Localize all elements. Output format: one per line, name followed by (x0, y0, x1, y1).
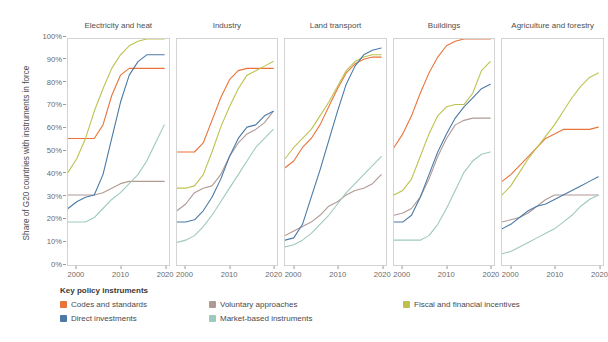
facet-panel-title: Land transport (284, 14, 387, 38)
series-line (502, 177, 598, 229)
legend-swatch (209, 301, 216, 308)
facet-plot-area (176, 38, 279, 266)
series-line (285, 157, 381, 247)
facet-plot-area (67, 38, 170, 266)
facet-plot-area (501, 38, 604, 266)
facet-panel-title: Buildings (393, 14, 496, 38)
series-line (177, 68, 273, 152)
legend-swatch (60, 315, 67, 322)
legend-item[interactable]: Direct investments (60, 312, 205, 324)
y-tick-label: 70% (47, 100, 62, 109)
facet-panel-title: Agriculture and forestry (501, 14, 604, 38)
facet-plot-area (284, 38, 387, 266)
series-line (177, 111, 273, 222)
x-tick-label: 2000 (67, 270, 84, 279)
y-axis-title: Share of G20 countries with instruments … (18, 36, 34, 270)
y-tick-label: 60% (47, 123, 62, 132)
series-line (68, 125, 164, 222)
legend-label: Fiscal and financial incentives (414, 300, 520, 309)
y-tick-label: 10% (47, 237, 62, 246)
x-tick-label: 2020 (265, 270, 282, 279)
facet-panel: Electricity and heat (67, 14, 170, 266)
facet-panel-title: Industry (176, 14, 279, 38)
x-tick-label: 2000 (393, 270, 410, 279)
y-tick-label: 0% (51, 260, 62, 269)
x-axis-panel: 200020102020 (176, 266, 279, 282)
series-line (285, 55, 381, 159)
y-tick-label: 100% (43, 32, 62, 41)
legend-label: Codes and standards (71, 300, 147, 309)
chart-root: Share of G20 countries with instruments … (0, 0, 608, 342)
x-tick-label: 2000 (502, 270, 519, 279)
series-line (285, 48, 381, 240)
y-tick-label: 90% (47, 54, 62, 63)
series-line (502, 127, 598, 181)
series-line (68, 181, 164, 195)
series-line (68, 68, 164, 138)
facet-panel: Agriculture and forestry (501, 14, 604, 266)
series-line (177, 129, 273, 242)
legend-swatch (60, 301, 67, 308)
panel-row: Electricity and heatIndustryLand transpo… (67, 14, 604, 266)
y-tick-label: 40% (47, 168, 62, 177)
facet-plot-area (393, 38, 496, 266)
legend-swatch (403, 301, 410, 308)
x-tick-label: 2000 (176, 270, 193, 279)
legend-title: Key policy instruments (60, 286, 602, 295)
series-line (502, 195, 598, 222)
legend-item[interactable]: Market-based instruments (209, 312, 399, 324)
y-axis-tick-labels: 0%10%20%30%40%50%60%70%80%90%100% (36, 36, 66, 264)
x-tick-label: 2010 (221, 270, 238, 279)
x-tick-label: 2020 (591, 270, 608, 279)
x-axis-panel: 200020102020 (393, 266, 496, 282)
x-axis-panel: 200020102020 (284, 266, 387, 282)
x-tick-label: 2020 (482, 270, 499, 279)
x-axis-panel: 200020102020 (501, 266, 604, 282)
x-tick-label: 2010 (112, 270, 129, 279)
legend-item[interactable]: Voluntary approaches (209, 298, 399, 310)
series-line (68, 39, 164, 172)
x-tick-label: 2020 (157, 270, 174, 279)
legend-swatch (209, 315, 216, 322)
y-tick-label: 50% (47, 146, 62, 155)
facet-panel-title: Electricity and heat (67, 14, 170, 38)
series-line (394, 39, 490, 147)
y-tick-label: 30% (47, 191, 62, 200)
legend: Key policy instruments Codes and standar… (60, 286, 602, 332)
series-line (394, 118, 490, 215)
series-line (394, 152, 490, 240)
legend-item[interactable]: Fiscal and financial incentives (403, 298, 602, 310)
x-tick-label: 2000 (285, 270, 302, 279)
series-line (285, 175, 381, 236)
x-tick-label: 2010 (438, 270, 455, 279)
y-tick-label: 80% (47, 77, 62, 86)
x-axis-row: 2000201020202000201020202000201020202000… (67, 266, 604, 282)
y-tick-label: 20% (47, 214, 62, 223)
series-line (502, 73, 598, 195)
facet-panel: Land transport (284, 14, 387, 266)
x-tick-label: 2010 (546, 270, 563, 279)
legend-items: Codes and standardsVoluntary approachesF… (60, 298, 602, 324)
facet-panel: Buildings (393, 14, 496, 266)
x-axis-panel: 200020102020 (67, 266, 170, 282)
series-line (394, 62, 490, 195)
series-line (285, 57, 381, 168)
x-tick-label: 2010 (329, 270, 346, 279)
legend-label: Direct investments (71, 314, 137, 323)
series-line (394, 84, 490, 222)
legend-label: Voluntary approaches (220, 300, 297, 309)
x-tick-label: 2020 (374, 270, 391, 279)
legend-item[interactable]: Codes and standards (60, 298, 205, 310)
legend-label: Market-based instruments (220, 314, 312, 323)
facet-panel: Industry (176, 14, 279, 266)
y-axis-title-text: Share of G20 countries with instruments … (22, 66, 31, 241)
series-line (502, 195, 598, 254)
